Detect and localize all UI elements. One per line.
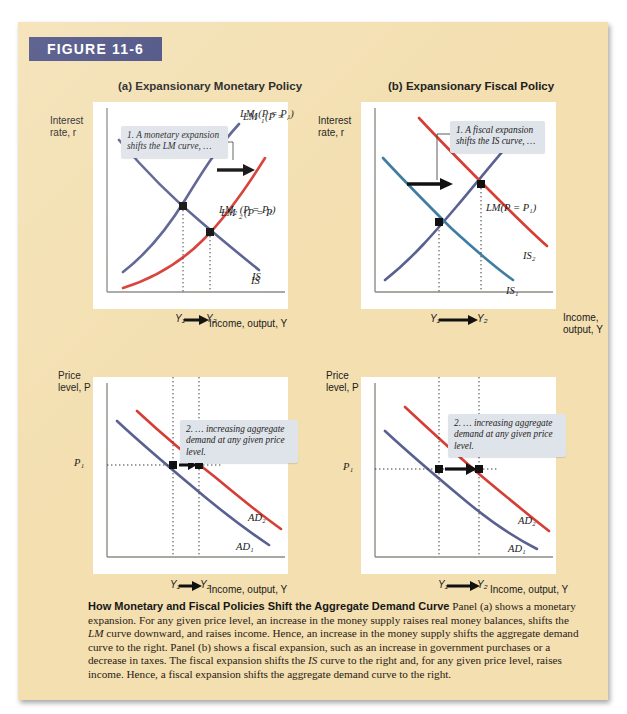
panel-c-ad1-curve-label: AD₁: [236, 541, 254, 552]
panel-b-title: (b) Expansionary Fiscal Policy: [388, 80, 554, 92]
panel-b-x-axis-line2: output, Y: [563, 324, 603, 335]
panel-b-is2-curve-label: IS₂: [523, 250, 535, 261]
panel-c-marker-1: [169, 461, 177, 469]
panel-a-lm2-curve: [123, 158, 265, 288]
panel-d-y-axis-label: Price level, P: [326, 370, 359, 394]
panel-a-equilibrium-2: [206, 228, 214, 236]
panel-b-x-axis-label: Income, output, Y: [563, 312, 603, 336]
panel-d-marker-1: [435, 465, 443, 473]
panel-c-x-axis-label: Income, output, Y: [209, 584, 287, 596]
panel-b-is1-curve: [383, 158, 513, 280]
panel-b-equilibrium-1: [435, 218, 443, 226]
figure-card: FIGURE 11-6 (a) Expansionary Monetary Po…: [18, 22, 608, 700]
panel-b-equilibrium-2: [477, 180, 485, 188]
panel-a-equilibrium-1: [179, 202, 187, 210]
panel-d-y-axis-line1: Price: [326, 370, 349, 381]
panel-c-tick-arrow: [179, 580, 203, 592]
figure-number-banner: FIGURE 11-6: [29, 37, 162, 61]
panel-a-title: (a) Expansionary Monetary Policy: [118, 80, 302, 92]
panel-c-y-axis-line2: level, P: [58, 382, 91, 393]
figure-caption-title: How Monetary and Fiscal Policies Shift t…: [88, 600, 449, 612]
panel-b-shift-arrow: [407, 178, 453, 190]
panel-c-ad2-curve-label: AD₂: [248, 512, 266, 523]
panel-c-y-axis-label: Price level, P: [58, 370, 91, 394]
panel-d-ad1-curve-label: AD₁: [508, 543, 526, 554]
panel-a-tick-arrow: [184, 314, 210, 326]
panel-d-callout: 2. … increasing aggregate demand at any …: [448, 414, 566, 457]
figure-number-label: FIGURE 11-6: [47, 41, 144, 57]
panel-b-is1-curve-label: IS₁: [506, 285, 518, 296]
chart-panel-d: [361, 377, 556, 574]
panel-d-plot: [361, 377, 556, 574]
panel-c-y-axis-line1: Price: [58, 370, 81, 381]
panel-d-tick-arrow: [447, 580, 481, 592]
panel-a-y-axis-label: Interest rate, r: [50, 115, 83, 139]
panel-d-shift-arrow: [445, 463, 477, 475]
panel-a-lm2-curve-label: LM₂ (P = P₁): [219, 204, 275, 215]
panel-a-shift-arrow: [217, 164, 255, 176]
panel-d-p1-tick-label: P₁: [343, 461, 353, 472]
panel-a-is-curve-label: IS: [252, 271, 261, 282]
panel-b-x-axis-line1: Income,: [563, 312, 599, 323]
panel-b-y-axis-line1: Interest: [318, 115, 351, 126]
panel-c-p1-tick-label: P₁: [74, 457, 84, 468]
chart-panel-c: [93, 377, 288, 574]
panel-a-y-axis-line1: Interest: [50, 115, 83, 126]
panel-a-callout: 1. A monetary expansion shifts the LM cu…: [121, 126, 228, 158]
panel-d-ad2-curve-label: AD₂: [518, 515, 536, 526]
panel-b-tick-arrow: [439, 314, 479, 326]
panel-c-plot: [93, 377, 288, 574]
panel-a-x-axis-label: Income, output, Y: [209, 318, 287, 330]
panel-b-y-axis-label: Interest rate, r: [318, 115, 351, 139]
panel-b-y-axis-line2: rate, r: [318, 127, 344, 138]
panel-b-callout: 1. A fiscal expansion shifts the IS curv…: [450, 121, 545, 153]
panel-a-y-axis-line2: rate, r: [50, 127, 76, 138]
panel-d-x-axis-label: Income, output, Y: [490, 584, 568, 596]
figure-caption: How Monetary and Fiscal Policies Shift t…: [88, 600, 580, 682]
panel-b-lm-curve-label: LM(P = P₁): [486, 202, 536, 213]
panel-c-callout: 2. … increasing aggregate demand at any …: [180, 420, 298, 463]
panel-d-y-axis-line2: level, P: [326, 382, 359, 393]
panel-a-lm1-curve-label: LM₁(P = P₁): [240, 108, 294, 119]
